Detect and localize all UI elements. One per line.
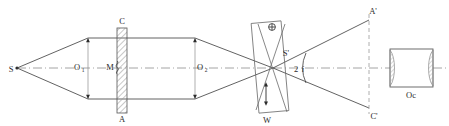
optical-diagram-canvas: S O 1 M C A O 2 S' 2 i W A' C' Oc: [0, 0, 449, 126]
label-objective-o2: O: [197, 62, 203, 72]
label-objective-o1: O: [74, 62, 80, 72]
label-angle-2: 2: [294, 64, 298, 74]
label-wedge-w: W: [263, 115, 271, 125]
label-eyepiece-oc: Oc: [406, 90, 416, 100]
optical-ray-diagram: S O 1 M C A O 2 S' 2 i W A' C' Oc: [0, 0, 449, 126]
label-plate-top-c: C: [119, 16, 125, 26]
label-objective-o1-subscript: 1: [82, 67, 85, 73]
hatched-plate-ca: [117, 28, 127, 113]
polarization-circled-plus-icon: [269, 24, 276, 31]
label-image-bottom-c-prime: C': [370, 111, 378, 121]
label-plate-bottom-a: A: [119, 114, 126, 124]
label-angle-i: i: [302, 64, 305, 74]
eyepiece-housing: [390, 49, 433, 87]
vibration-direction-arrow: [264, 82, 268, 106]
label-image-top-a-prime: A': [369, 6, 377, 16]
beam-collimated-section: [88, 38, 195, 99]
label-image-point-s-prime: S': [283, 48, 290, 58]
label-source-s: S: [9, 64, 14, 74]
label-mirror-m: M: [106, 62, 114, 72]
label-objective-o2-subscript: 2: [205, 67, 208, 73]
aperture-stop-o1: [86, 38, 90, 99]
